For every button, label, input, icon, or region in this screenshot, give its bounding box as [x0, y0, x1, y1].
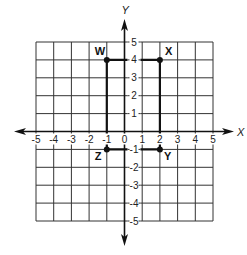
x-tick-label: -1 [102, 134, 111, 145]
x-tick-label: -2 [85, 134, 94, 145]
y-tick-label: 3 [131, 72, 137, 83]
point-label-x: X [165, 45, 173, 57]
y-tick-label: -2 [130, 162, 139, 173]
x-tick-label: 4 [193, 134, 199, 145]
coordinate-plane: XY -5-4-3-2-1012345-5-4-3-2-112345 WXYZ [0, 0, 247, 255]
y-tick-label: 2 [131, 90, 137, 101]
x-tick-label: 3 [175, 134, 181, 145]
y-tick-label: 5 [131, 37, 137, 48]
point-z [104, 146, 110, 152]
y-tick-label: 1 [131, 108, 137, 119]
x-tick-label: -3 [67, 134, 76, 145]
point-label-y: Y [164, 150, 172, 162]
point-label-w: W [95, 45, 106, 57]
x-tick-label: 5 [210, 134, 216, 145]
y-tick-label: -1 [130, 144, 139, 155]
x-tick-label: 2 [157, 134, 163, 145]
x-tick-label: -5 [32, 134, 41, 145]
x-axis-label: X [236, 126, 245, 138]
y-tick-label: -4 [130, 198, 139, 209]
y-tick-label: -5 [130, 216, 139, 227]
point-x [157, 57, 163, 63]
point-w [104, 57, 110, 63]
point-y [157, 146, 163, 152]
y-axis-label: Y [122, 4, 130, 16]
point-label-z: Z [95, 150, 102, 162]
x-tick-label: -4 [49, 134, 58, 145]
x-tick-label: 1 [139, 134, 145, 145]
y-tick-label: -3 [130, 180, 139, 191]
x-tick-label: 0 [122, 134, 128, 145]
y-tick-label: 4 [131, 54, 137, 65]
